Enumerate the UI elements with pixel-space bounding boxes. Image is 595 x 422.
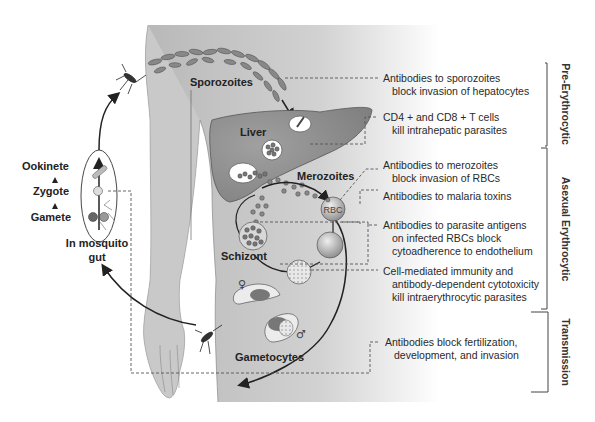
note-6-line2: antibody-dependent cytotoxicity [392,278,540,290]
ookinete-label: Ookinete [22,160,69,172]
zygote-label: Zygote [33,185,69,197]
note-4-line1: Antibodies to malaria toxins [383,190,511,202]
rbc-label: RBC [323,205,343,215]
gamete-label: Gamete [31,211,71,223]
note-7-line2: development, and invasion [394,349,519,361]
arrow-zygote-to-ookinete [52,177,58,183]
merozoites-label: Merozoites [297,170,354,182]
note-1-line2: block invasion of hepatocytes [392,85,529,97]
phase-label-transmission: Transmission [560,318,572,386]
gametocytes-label: Gametocytes [235,351,304,363]
mosquito-gut-label-line1: In mosquito [66,237,129,249]
note-5-line1: Antibodies to parasite antigens [383,219,527,231]
note-3-line2: block invasion of RBCs [392,172,500,184]
schizont-label: Schizont [221,250,267,262]
schizont [239,222,267,250]
note-7-line1: Antibodies block fertilization, [385,336,518,348]
mosquito-gut-label-line2: gut [88,251,105,263]
female-symbol: ♀ [238,278,246,291]
mosquito-biting-shoulder [116,64,146,94]
note-5-line3: cytoadherence to endothelium [392,245,533,257]
sporozoites-label: Sporozoites [190,76,253,88]
malaria-lifecycle-diagram: Sporozoites Liver Merozoites [0,0,595,422]
gut-to-mosquito-arrow [99,94,118,150]
liver-label: Liver [240,126,267,138]
infected-rbc-trophozoite [317,232,343,258]
note-2-line2: kill intrahepatic parasites [392,124,507,136]
note-3-line1: Antibodies to merozoites [383,159,498,171]
phase-label-pre-erythrocytic: Pre-Erythrocytic [560,63,572,145]
note-2-line1: CD4 + and CD8 + T cells [383,111,499,123]
phase-label-asexual-erythrocytic: Asexual Erythrocytic [560,177,572,282]
phase-brackets [531,63,548,392]
male-symbol: ♂ [296,328,306,341]
note-5-line2: on infected RBCs block [392,232,502,244]
arrow-gamete-to-zygote [52,203,58,209]
mosquito-gut [81,150,117,242]
note-6-line1: Cell-mediated immunity and [383,265,513,277]
note-6-line3: kill intraerythrocytic parasites [392,291,527,303]
note-1-line1: Antibodies to sporozoites [383,72,500,84]
